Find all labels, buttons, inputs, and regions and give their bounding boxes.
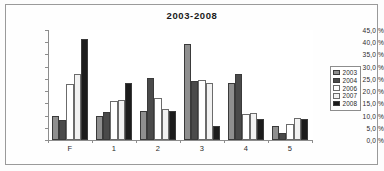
legend-label: 2003: [343, 69, 358, 76]
bar-2008-5: [301, 119, 308, 140]
x-axis-tick-label: 3: [187, 144, 217, 153]
legend-swatch-icon: [333, 93, 340, 99]
legend-swatch-icon: [333, 101, 340, 107]
y-axis-tick-label: 10,0 %: [338, 112, 384, 119]
x-axis-tick: [224, 140, 225, 143]
legend-item-2007: 2007: [333, 92, 357, 99]
legend-label: 2004: [343, 77, 358, 84]
legend-label: 2008: [343, 100, 358, 107]
x-axis-tick-label: F: [55, 144, 85, 153]
x-axis-tick: [268, 140, 269, 143]
bar-2006-5: [286, 124, 293, 140]
bar-2007-5: [294, 118, 301, 140]
bar-2003-5: [272, 126, 279, 140]
legend-item-2003: 2003: [333, 69, 357, 76]
bar-group: [0, 30, 264, 140]
x-axis-tick: [136, 140, 137, 143]
x-axis-tick-label: 4: [231, 144, 261, 153]
legend-label: 2006: [343, 85, 358, 92]
legend-swatch-icon: [333, 78, 340, 84]
bar-2004-5: [279, 133, 286, 140]
legend-item-2008: 2008: [333, 100, 357, 107]
y-axis-tick-label: 5,0 %: [338, 124, 384, 131]
x-axis-tick-label: 2: [143, 144, 173, 153]
legend-swatch-icon: [333, 70, 340, 76]
x-axis-tick: [312, 140, 313, 143]
chart-title: 2003-2008: [0, 10, 384, 21]
chart-figure: 2003-2008 0,0 %5,0 %10,0 %15,0 %20,0 %25…: [0, 0, 384, 171]
legend-label: 2007: [343, 92, 358, 99]
legend-swatch-icon: [333, 85, 340, 91]
y-axis-tick-label: 45,0 %: [338, 27, 384, 34]
y-axis-tick-label: 40,0 %: [338, 39, 384, 46]
legend-item-2006: 2006: [333, 85, 357, 92]
x-axis-tick: [48, 140, 49, 143]
x-axis-tick: [92, 140, 93, 143]
chart-legend: 20032004200620072008: [330, 66, 361, 111]
y-axis-tick-label: 0,0 %: [338, 137, 384, 144]
y-axis-tick-label: 35,0 %: [338, 51, 384, 58]
legend-item-2004: 2004: [333, 77, 357, 84]
x-axis-tick-label: 1: [99, 144, 129, 153]
x-axis-tick: [180, 140, 181, 143]
x-axis-tick-label: 5: [275, 144, 305, 153]
